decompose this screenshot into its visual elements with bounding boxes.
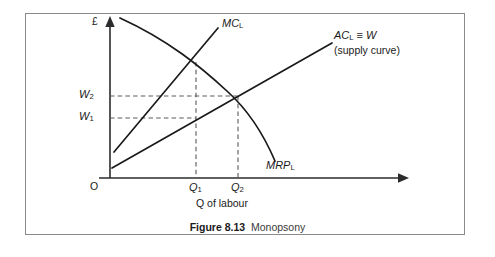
curve-label-mc-l: MCL [222, 17, 243, 31]
origin-label: O [90, 180, 98, 192]
x-axis-arrow [398, 173, 409, 183]
figure-caption: Figure 8.13 Monopsony [0, 221, 495, 233]
curve-label-ac-l-secondary: (supply curve) [334, 44, 400, 56]
y-tick-label-w1: W1 [79, 110, 94, 124]
y-tick-label-w2: W2 [79, 88, 94, 102]
curve-mc-l [114, 28, 218, 152]
curve-label-mrp-l: MRPL [266, 159, 295, 173]
curve-ac-l [112, 43, 332, 168]
x-tick-label-q2: Q2 [231, 181, 244, 195]
figure-caption-title: Monopsony [251, 221, 305, 233]
monopsony-diagram [0, 0, 495, 257]
x-axis-title: Q of labour [196, 197, 248, 209]
y-axis-label: £ [92, 16, 98, 28]
y-axis-arrow [105, 16, 114, 27]
curve-label-ac-l: ACL ≡ W(supply curve) [334, 29, 400, 56]
figure-caption-number: Figure 8.13 [190, 221, 245, 233]
x-tick-label-q1: Q1 [189, 181, 202, 195]
